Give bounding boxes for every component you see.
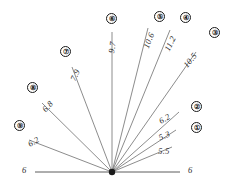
ray-index-badge-2: ② — [191, 101, 202, 112]
radial-fan-diagram: 5.55.3①6.2②10.5③11.2④10.6⑤9.7⑥7.9⑦6.8⑧6.… — [0, 0, 234, 192]
ray-line-9 — [29, 140, 112, 172]
ray-index-badge-1: ① — [191, 122, 202, 133]
baseline-left-label: 6 — [22, 165, 26, 175]
ray-value-label-5: 5.5 — [158, 146, 170, 156]
vertex-node — [109, 169, 115, 175]
ray-index-badge-4: ④ — [180, 12, 191, 23]
ray-index-badge-9: ⑨ — [14, 120, 25, 131]
ray-index-badge-6: ⑥ — [106, 13, 117, 24]
ray-index-badge-7: ⑦ — [60, 46, 71, 57]
ray-value-label-6: 9.7 — [106, 41, 118, 54]
ray-index-badge-3: ③ — [209, 27, 220, 38]
ray-lines-canvas — [0, 0, 234, 192]
ray-line-5b — [112, 28, 148, 172]
ray-line-7 — [72, 67, 112, 172]
baseline-right-label: 6 — [188, 165, 192, 175]
ray-index-badge-8: ⑧ — [27, 82, 38, 93]
ray-index-badge-5b: ⑤ — [154, 11, 165, 22]
ray-line-8 — [42, 103, 112, 172]
